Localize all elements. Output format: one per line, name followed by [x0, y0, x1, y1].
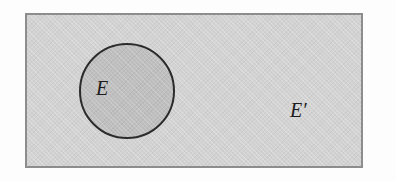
- universal-set-rectangle: E′: [25, 13, 363, 168]
- venn-diagram-figure: E′ E: [0, 0, 396, 181]
- set-complement-label: E′: [290, 100, 307, 120]
- set-e-label: E: [96, 78, 108, 98]
- set-e-circle: [79, 43, 175, 139]
